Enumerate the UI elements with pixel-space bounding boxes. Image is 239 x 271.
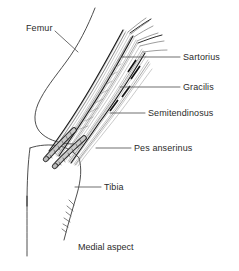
insertion-cord-upper [42,130,74,163]
label-tibia: Tibia [104,183,124,192]
figure-caption: Medial aspect [78,243,134,252]
label-gracilis: Gracilis [183,83,214,92]
anatomy-illustration [0,0,239,271]
tibia-shading-hatch [62,200,74,232]
label-semitendinosus: Semitendinosus [148,109,213,118]
label-sartorius: Sartorius [183,53,220,62]
label-femur: Femur [26,24,53,33]
leader-femur [55,31,78,52]
label-pes-anserinus: Pes anserinus [134,144,192,153]
anatomy-figure: Femur Sartorius Gracilis Semitendinosus … [0,0,239,271]
